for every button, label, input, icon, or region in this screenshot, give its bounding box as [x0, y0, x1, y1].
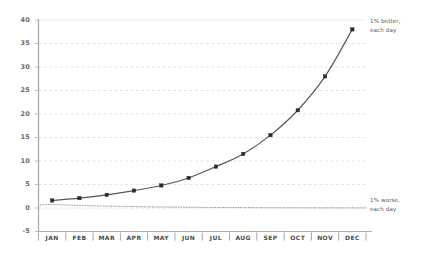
- y-axis-tick-label: 15: [8, 134, 30, 141]
- data-point-marker: [50, 199, 53, 202]
- annotation-one-percent-worse: 1% worse, each day: [370, 196, 427, 213]
- x-axis-tick-label-oct: OCT: [284, 235, 311, 241]
- y-axis-tick-label: 25: [8, 87, 30, 94]
- y-axis-tick-label: 20: [8, 111, 30, 118]
- x-axis-tick-label-feb: FEB: [66, 235, 93, 241]
- data-point-marker: [187, 176, 190, 179]
- x-axis-tick-label-mar: MAR: [93, 235, 120, 241]
- x-axis-tick-label-may: MAY: [148, 235, 175, 241]
- data-series-line-2: [41, 205, 367, 208]
- data-point-marker: [351, 28, 354, 31]
- x-axis-tick-label-nov: NOV: [311, 235, 338, 241]
- y-axis-tick-label: 40: [8, 17, 30, 24]
- x-axis-tick-label-jan: JAN: [39, 235, 66, 241]
- data-point-marker: [241, 152, 244, 155]
- data-point-marker: [214, 165, 217, 168]
- y-axis-tick-label: 35: [8, 40, 30, 47]
- x-axis-tick-label-sep: SEP: [257, 235, 284, 241]
- data-point-marker: [269, 133, 272, 136]
- data-point-marker: [78, 196, 81, 199]
- chart-container: -50510152025303540 JANFEBMARAPRMAYJUNJUL…: [0, 0, 427, 259]
- data-point-marker: [323, 75, 326, 78]
- x-axis-tick-label-jul: JUL: [202, 235, 229, 241]
- data-series-line-1: [52, 29, 352, 200]
- data-point-marker: [296, 109, 299, 112]
- annotation-one-percent-better: 1% better, each day: [370, 17, 427, 34]
- y-axis-tick-label: 10: [8, 158, 30, 165]
- data-point-marker: [132, 189, 135, 192]
- x-axis-tick-label-aug: AUG: [230, 235, 257, 241]
- x-axis-tick-label-dec: DEC: [339, 235, 366, 241]
- line-chart-plot: [0, 0, 427, 259]
- data-point-marker: [105, 193, 108, 196]
- x-axis-tick-label-apr: APR: [120, 235, 147, 241]
- y-axis-tick-label: -5: [8, 228, 30, 235]
- data-point-marker: [160, 184, 163, 187]
- y-axis-tick-label: 5: [8, 181, 30, 188]
- y-axis-tick-label: 0: [8, 205, 30, 212]
- y-axis-tick-label: 30: [8, 64, 30, 71]
- x-axis-tick-label-jun: JUN: [175, 235, 202, 241]
